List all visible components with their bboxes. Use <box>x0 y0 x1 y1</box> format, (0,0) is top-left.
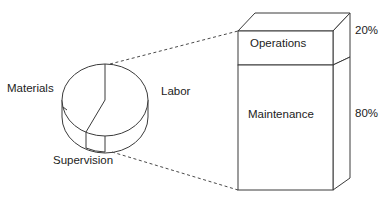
box-percent-maintenance: 80% <box>355 108 378 120</box>
pie-label-materials: Materials <box>7 83 54 95</box>
pie-label-supervision: Supervision <box>53 155 113 167</box>
leader-line-upper <box>110 31 238 64</box>
box-side-face-maintenance <box>333 57 350 190</box>
box-front-face-maintenance <box>238 65 333 190</box>
box-top-face <box>238 13 350 31</box>
diagram-artwork <box>0 0 390 198</box>
pie-label-labor: Labor <box>161 86 190 98</box>
leader-line-lower <box>112 152 238 190</box>
box-label-operations: Operations <box>250 38 306 50</box>
diagram-canvas: Materials Labor Supervision Operations M… <box>0 0 390 198</box>
box-label-maintenance: Maintenance <box>248 109 314 121</box>
box-percent-operations: 20% <box>355 25 378 37</box>
pie-chart-3d <box>62 64 148 153</box>
